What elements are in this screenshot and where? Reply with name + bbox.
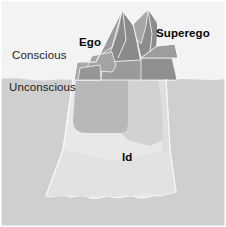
ego-submerged-column (73, 79, 128, 133)
label-unconscious: Unconscious (9, 82, 76, 94)
iceberg-diagram: Conscious Unconscious Ego Superego Id (0, 0, 226, 227)
label-ego: Ego (79, 37, 101, 49)
base-right-step (141, 58, 177, 80)
label-conscious: Conscious (12, 50, 67, 62)
label-superego: Superego (156, 28, 210, 40)
label-id: Id (122, 152, 132, 164)
